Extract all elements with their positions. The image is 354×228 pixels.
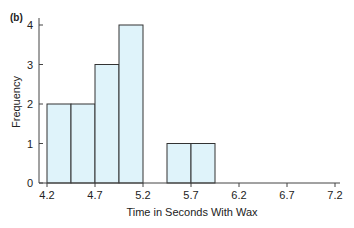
x-tick-label: 4.2 xyxy=(39,189,54,201)
x-tick-label: 4.7 xyxy=(87,189,102,201)
x-tick-label: 5.2 xyxy=(135,189,150,201)
x-tick-label: 5.7 xyxy=(183,189,198,201)
histogram-bar xyxy=(167,144,191,184)
histogram-bar xyxy=(47,104,71,183)
histogram-bar xyxy=(71,104,95,183)
x-tick-label: 6.7 xyxy=(279,189,294,201)
y-tick-label: 1 xyxy=(27,138,33,150)
y-tick-label: 0 xyxy=(27,177,33,189)
y-tick-label: 4 xyxy=(27,19,33,31)
histogram-bar xyxy=(191,144,215,184)
histogram-bars xyxy=(47,25,215,183)
histogram-bar xyxy=(119,25,143,183)
histogram-bar xyxy=(95,65,119,184)
x-tick-label: 6.2 xyxy=(231,189,246,201)
y-tick-label: 3 xyxy=(27,59,33,71)
histogram: 012344.24.75.25.76.26.77.2 xyxy=(0,0,354,228)
y-tick-label: 2 xyxy=(27,98,33,110)
x-tick-label: 7.2 xyxy=(327,189,342,201)
